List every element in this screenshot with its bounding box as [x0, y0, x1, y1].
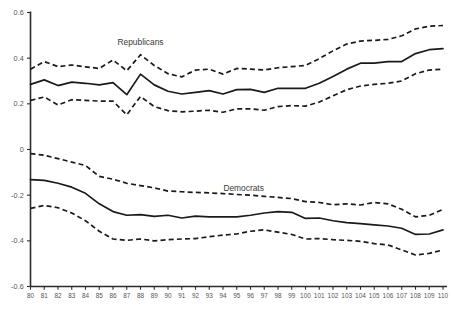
x-tick-label-28: 108: [410, 292, 421, 299]
x-tick-label-12: 92: [192, 292, 199, 299]
x-tick-label-8: 88: [137, 292, 144, 299]
x-tick-label-6: 86: [109, 292, 116, 299]
series-line-democrats-lower-ci: [31, 205, 444, 255]
series-line-republicans: [31, 49, 444, 95]
series-layer: [31, 26, 444, 255]
chart-plot-area: [0, 0, 451, 310]
x-tick-label-25: 105: [369, 292, 380, 299]
x-tick-label-17: 97: [261, 292, 268, 299]
x-tick-label-18: 98: [274, 292, 281, 299]
x-tick-label-22: 102: [328, 292, 339, 299]
x-tick-label-19: 99: [288, 292, 295, 299]
x-tick-label-26: 106: [383, 292, 394, 299]
x-tick-label-23: 103: [341, 292, 352, 299]
x-tick-label-24: 104: [355, 292, 366, 299]
x-tick-label-30: 110: [438, 292, 448, 299]
series-line-republicans-lower-ci: [31, 69, 444, 115]
y-tick-label-6: -0.6: [2, 282, 24, 291]
x-tick-label-16: 96: [247, 292, 254, 299]
series-line-republicans-upper-ci: [31, 26, 444, 77]
series-annotation-republicans: Republicans: [117, 37, 163, 47]
x-tick-label-13: 93: [206, 292, 213, 299]
x-tick-label-21: 101: [314, 292, 325, 299]
series-annotation-democrats: Democrats: [223, 183, 264, 193]
x-tick-label-0: 80: [27, 292, 34, 299]
x-tick-label-29: 109: [424, 292, 435, 299]
x-tick-label-1: 81: [41, 292, 48, 299]
x-tick-label-7: 87: [123, 292, 130, 299]
x-tick-label-15: 95: [233, 292, 240, 299]
chart-container: 0.60.40.20-0.2-0.4-0.6 80818283848586878…: [0, 0, 451, 310]
x-tick-label-4: 84: [82, 292, 89, 299]
axes-layer: [27, 12, 447, 290]
y-tick-label-0: 0.6: [2, 8, 24, 17]
y-tick-label-1: 0.4: [2, 54, 24, 63]
y-tick-label-3: 0: [2, 145, 24, 154]
x-tick-label-20: 100: [300, 292, 311, 299]
x-tick-label-14: 94: [219, 292, 226, 299]
y-tick-label-2: 0.2: [2, 99, 24, 108]
x-tick-label-3: 83: [68, 292, 75, 299]
x-tick-label-2: 82: [54, 292, 61, 299]
x-tick-label-11: 91: [178, 292, 185, 299]
x-tick-label-27: 107: [396, 292, 407, 299]
x-tick-label-5: 85: [96, 292, 103, 299]
x-tick-label-9: 89: [151, 292, 158, 299]
x-tick-label-10: 90: [164, 292, 171, 299]
y-tick-label-4: -0.2: [2, 191, 24, 200]
y-tick-label-5: -0.4: [2, 236, 24, 245]
